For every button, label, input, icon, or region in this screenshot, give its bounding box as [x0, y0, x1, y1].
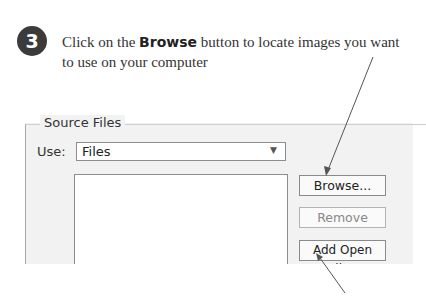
arrow-to-browse-icon — [324, 57, 373, 176]
arrow-to-add-open-files-icon — [316, 253, 345, 293]
